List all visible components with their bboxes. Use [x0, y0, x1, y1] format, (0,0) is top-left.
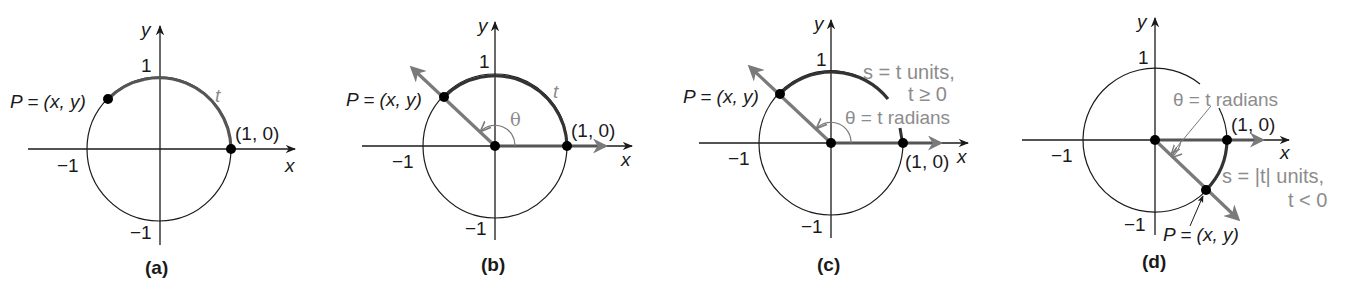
point-label: P = (x, y) — [346, 89, 422, 110]
point-p — [103, 94, 113, 104]
tick-neg-y: −1 — [801, 216, 823, 237]
panel-c: y x 1 −1 −1 P = (x, y) (1, 0) s = t unit… — [683, 13, 968, 275]
arc-label-line2: t ≥ 0 — [908, 83, 947, 105]
point-1-0 — [562, 141, 572, 151]
tick-pos-y: 1 — [816, 49, 827, 70]
angle-label: θ — [510, 109, 521, 130]
y-axis-label: y — [139, 19, 152, 40]
angle-label: θ = t radians — [845, 107, 950, 128]
point-label: P = (x, y) — [10, 91, 86, 112]
point-1-0 — [226, 144, 236, 154]
point-p — [775, 89, 785, 99]
origin-point — [490, 141, 500, 151]
arc-label: t — [553, 81, 559, 102]
panel-b: y x 1 −1 −1 P = (x, y) (1, 0) t θ (b) — [346, 15, 632, 275]
tick-neg-x: −1 — [1051, 145, 1073, 166]
origin-point — [1150, 135, 1160, 145]
arc-label-line1: s = |t| units, — [1222, 165, 1324, 187]
tick-pos-y: 1 — [1138, 47, 1149, 68]
tick-neg-y: −1 — [1124, 214, 1146, 235]
panel-d: y x 1 −1 −1 P = (x, y) (1, 0) θ = t radi… — [1022, 11, 1327, 272]
start-label: (1, 0) — [235, 123, 279, 144]
x-axis-label: x — [1279, 142, 1291, 163]
point-label-pointer — [1190, 196, 1203, 226]
point-label: P = (x, y) — [683, 86, 759, 107]
origin-point — [826, 138, 836, 148]
angle-label-pointer — [1172, 106, 1211, 153]
tick-neg-x: −1 — [728, 148, 750, 169]
terminal-ray — [750, 67, 831, 143]
start-label: (1, 0) — [905, 151, 949, 172]
tick-neg-y: −1 — [130, 222, 152, 243]
arc-label: t — [215, 85, 221, 106]
tick-neg-y: −1 — [465, 218, 487, 239]
tick-neg-x: −1 — [392, 151, 414, 172]
point-1-0 — [898, 138, 908, 148]
arc-label-line1: s = t units, — [863, 61, 955, 83]
caption-c: (c) — [817, 254, 840, 275]
arc-t — [108, 78, 231, 149]
angle-theta-arc — [1172, 140, 1181, 157]
x-axis-label: x — [284, 155, 296, 176]
y-axis-label: y — [476, 15, 489, 36]
start-label: (1, 0) — [1231, 114, 1275, 135]
tick-pos-y: 1 — [479, 51, 490, 72]
point-p — [439, 92, 449, 102]
tick-pos-y: 1 — [141, 55, 152, 76]
tick-neg-x: −1 — [57, 155, 79, 176]
start-label: (1, 0) — [571, 120, 615, 141]
caption-d: (d) — [1142, 251, 1166, 272]
arc-t — [444, 76, 567, 146]
caption-a: (a) — [145, 257, 168, 278]
y-axis-label: y — [1135, 11, 1148, 32]
arc-label-line2: t < 0 — [1288, 189, 1327, 211]
point-1-0 — [1222, 135, 1232, 145]
point-label: P = (x, y) — [1163, 224, 1239, 245]
x-axis-label: x — [956, 146, 968, 167]
panel-a: y x 1 −1 −1 P = (x, y) (1, 0) t (a) — [10, 19, 296, 278]
y-axis-label: y — [812, 13, 825, 34]
point-p — [1201, 185, 1211, 195]
angle-label: θ = t radians — [1173, 89, 1278, 110]
x-axis-label: x — [620, 149, 632, 170]
unit-circle-figure: y x 1 −1 −1 P = (x, y) (1, 0) t (a) y x … — [0, 0, 1349, 298]
caption-b: (b) — [481, 254, 505, 275]
